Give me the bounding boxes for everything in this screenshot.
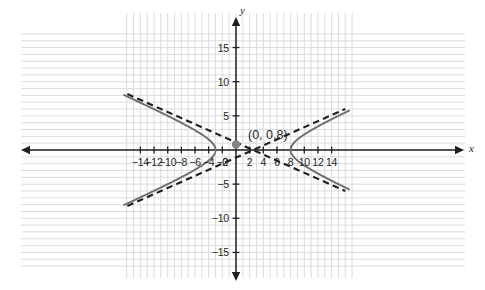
y-tick-label: 15 [218,42,229,54]
x-tick-label: 14 [326,156,337,168]
x-tick-label: −6 [189,156,201,168]
x-tick-label: 8 [288,156,294,168]
marked-point [232,140,240,148]
y-tick-label: −5 [217,178,229,190]
x-axis-label: x [469,142,474,154]
y-tick-label: 10 [218,76,229,88]
y-axis-label: y [240,4,245,16]
x-tick-label: 6 [274,156,280,168]
y-tick-label: 5 [223,110,229,122]
x-tick-label: −4 [203,156,215,168]
y-tick-label: −15 [212,246,229,258]
x-tick-label: 2 [247,156,253,168]
hyperbola-plot [0,0,485,290]
x-tick-label: −10 [159,156,176,168]
x-tick-label: 10 [299,156,310,168]
x-tick-label: −2 [217,156,229,168]
y-tick-label: −10 [212,212,229,224]
x-tick-label: −8 [176,156,188,168]
chart-figure: x y 0 (0, 0.8) −14−12−10−8−6−4−224681012… [0,0,485,290]
grid-lines [21,13,465,278]
x-tick-label: 12 [312,156,323,168]
point-annotation-label: (0, 0.8) [248,128,288,142]
x-tick-label: 4 [260,156,266,168]
